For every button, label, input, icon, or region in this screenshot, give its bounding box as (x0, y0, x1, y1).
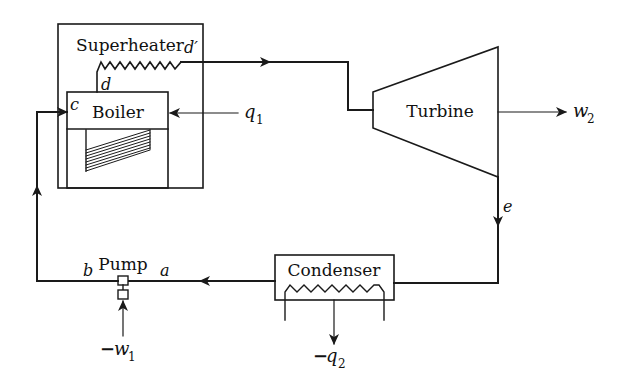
state-c-label: c (70, 95, 79, 114)
condensate-line: a (128, 261, 275, 281)
state-b-label: b (83, 261, 93, 280)
rankine-cycle-diagram: Superheater Boiler c d d′ q (0, 0, 622, 390)
heat-input-q1: q 1 (170, 101, 264, 127)
state-e-label: e (503, 197, 512, 216)
w2-subscript: 2 (587, 112, 595, 126)
superheater-label: Superheater (76, 35, 185, 55)
w1-sign: − (100, 338, 115, 359)
boiler: Boiler (67, 92, 168, 188)
heat-rejection-q2: − q 2 (313, 300, 346, 371)
pump: Pump (98, 254, 148, 299)
q1-subscript: 1 (256, 113, 264, 127)
exhaust-line: e (394, 177, 512, 283)
turbine: Turbine (373, 47, 498, 177)
pump-work-w1: − w 1 (100, 301, 136, 364)
w1-subscript: 1 (128, 350, 136, 364)
state-d-prime-label: d′ (184, 38, 198, 57)
state-d-label: d (101, 75, 111, 94)
q2-symbol: q (326, 345, 338, 366)
steam-line-to-turbine (181, 62, 373, 110)
q1-symbol: q (244, 101, 256, 122)
state-a-label: a (160, 261, 170, 280)
condenser-label: Condenser (288, 260, 382, 280)
q2-subscript: 2 (338, 357, 346, 371)
pump-label: Pump (98, 254, 148, 274)
boiler-label: Boiler (92, 102, 145, 122)
turbine-label: Turbine (406, 101, 474, 121)
boiler-tube-bank (86, 130, 150, 171)
work-output-w2: w 2 (498, 100, 595, 126)
